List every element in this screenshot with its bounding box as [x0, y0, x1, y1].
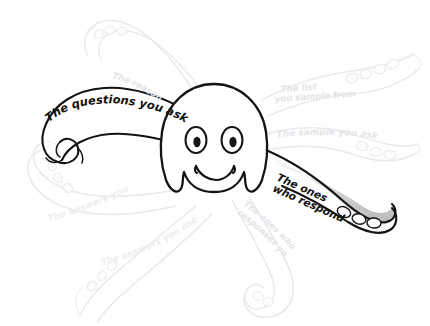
- octopus-diagram: The reason you're doing it The list you …: [0, 0, 430, 326]
- label-list-you-sample-from: The list you sample from: [274, 81, 356, 104]
- octopus-head: [161, 84, 267, 192]
- label-ones-who-respond: The ones who respond: [271, 171, 347, 224]
- label-reason-youre-doing-it: The reason you're doing it: [0, 0, 164, 103]
- label-reason-youre-doing-it-text: The reason you're doing it: [0, 0, 164, 103]
- svg-text:The reason you're doing it: The reason you're doing it: [0, 0, 164, 103]
- label-sample-you-ask-text: The sample you ask: [276, 127, 380, 141]
- octopus-illustration: The reason you're doing it The list you …: [0, 0, 430, 326]
- label-sample-you-ask: The sample you ask: [276, 127, 380, 141]
- svg-text:The sample you ask: The sample you ask: [276, 127, 380, 141]
